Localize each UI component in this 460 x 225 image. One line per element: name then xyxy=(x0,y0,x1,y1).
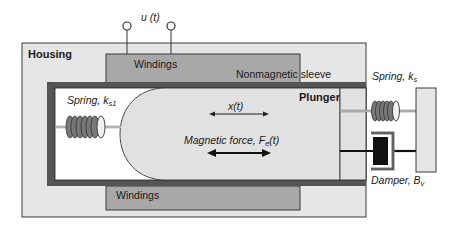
sleeve-label: Nonmagnetic sleeve xyxy=(236,68,331,80)
magnetic-force-label: Magnetic force, Fe(t) xyxy=(184,134,279,148)
solenoid-diagram: Housing u (t) Windings Windings Nonmagne… xyxy=(0,0,460,225)
windings-bottom-label: Windings xyxy=(116,189,159,201)
input-label: u (t) xyxy=(141,11,160,23)
housing-label: Housing xyxy=(28,48,72,60)
terminal-left-icon xyxy=(123,22,131,30)
fixed-wall xyxy=(416,88,436,172)
terminal-right-icon xyxy=(167,22,175,30)
windings-top-label: Windings xyxy=(134,58,177,70)
outer-spring-label: Spring, ks xyxy=(372,70,417,84)
displacement-label: x(t) xyxy=(227,100,243,112)
plunger-label: Plunger xyxy=(299,91,341,103)
damper-piston xyxy=(373,137,388,165)
damper-label: Damper, Bv xyxy=(371,174,426,188)
plunger-extension xyxy=(340,88,366,180)
